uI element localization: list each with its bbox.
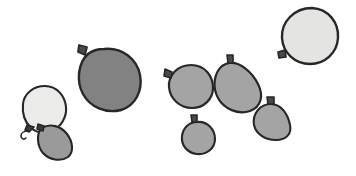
balloon-small-right-knot — [267, 97, 274, 104]
balloon-mid-right-knot — [227, 55, 233, 63]
balloon-small-bottom-body — [182, 122, 215, 154]
balloon-dark-large-body — [79, 49, 141, 111]
balloon-dark-large-knot — [78, 45, 87, 55]
balloon-scene-svg — [0, 0, 356, 176]
balloon-illustration: Balloons Hand-drawn grayscale illustrati… — [0, 0, 356, 176]
balloon-light-top-right-knot — [278, 50, 286, 58]
balloon-mid-left-body — [169, 65, 213, 108]
balloon-gray-lower-left-knot — [37, 124, 44, 131]
balloon-small-bottom-knot — [191, 115, 197, 122]
balloon-light-top-right-body — [282, 8, 338, 64]
